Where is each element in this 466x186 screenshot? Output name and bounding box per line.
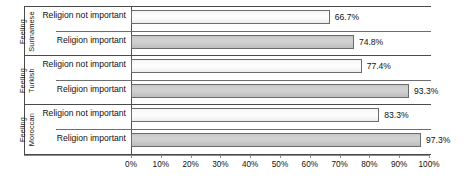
bar (131, 59, 362, 73)
x-axis-tick-label: 40% (242, 160, 258, 169)
x-axis-tick (131, 155, 132, 158)
x-axis-tick (429, 155, 430, 158)
bar-value-label: 66.7% (335, 12, 359, 22)
row-label: Religion important (40, 133, 126, 143)
group-divider (24, 6, 431, 7)
bar-chart: FeelingSurinameseReligion not important6… (0, 0, 466, 186)
x-axis-tick (340, 155, 341, 158)
bar (131, 84, 409, 98)
x-axis-tick (161, 155, 162, 158)
bar (131, 10, 330, 24)
x-axis-tick (399, 155, 400, 158)
bar-value-label: 93.3% (414, 86, 438, 96)
group-divider (24, 104, 431, 105)
row-divider (56, 80, 431, 81)
row-label: Religion important (40, 84, 126, 94)
x-axis-tick-label: 100% (419, 160, 440, 169)
group-label-line2: Moroccan (28, 105, 37, 154)
x-axis-tick-label: 90% (391, 160, 407, 169)
bar (131, 35, 354, 49)
x-axis-tick-label: 60% (302, 160, 318, 169)
row-label: Religion not important (40, 108, 126, 118)
bar (131, 108, 379, 122)
row-label: Religion not important (40, 10, 126, 20)
x-axis-tick (191, 155, 192, 158)
group-label-line2: Turkish (28, 56, 37, 105)
bar-value-label: 83.3% (384, 110, 408, 120)
x-axis-tick (310, 155, 311, 158)
x-axis-tick-label: 0% (125, 160, 137, 169)
x-axis-tick-label: 20% (182, 160, 198, 169)
x-axis-tick (280, 155, 281, 158)
row-label: Religion important (40, 35, 126, 45)
bar-value-label: 74.8% (359, 37, 383, 47)
group-label-1: FeelingSurinamese (19, 7, 36, 56)
bar-value-label: 77.4% (367, 61, 391, 71)
x-axis-tick-label: 10% (153, 160, 169, 169)
x-axis-tick (250, 155, 251, 158)
group-divider (24, 55, 431, 56)
bar (131, 133, 421, 147)
group-label-2: FeelingTurkish (19, 56, 36, 105)
x-axis-tick-label: 50% (272, 160, 288, 169)
group-label-3: FeelingMoroccan (19, 105, 36, 154)
x-axis-tick-label: 80% (361, 160, 377, 169)
x-axis-tick-label: 70% (331, 160, 347, 169)
row-divider (56, 31, 431, 32)
x-axis-tick (369, 155, 370, 158)
bar-value-label: 97.3% (426, 135, 450, 145)
group-label-line2: Surinamese (28, 7, 37, 56)
row-label: Religion not important (40, 59, 126, 69)
x-axis-tick (220, 155, 221, 158)
row-divider (56, 129, 431, 130)
x-axis-tick-label: 30% (212, 160, 228, 169)
